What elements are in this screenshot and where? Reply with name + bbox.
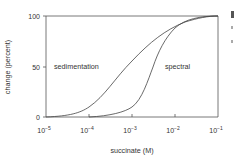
cropped-text-fragment (231, 26, 233, 29)
y-tick-100: 100 (28, 13, 40, 20)
x-tick-1e-1: 10−1 (209, 125, 223, 134)
x-tick-1e-5: 10−5 (37, 125, 51, 134)
y-tick-50: 50 (32, 64, 40, 71)
spectral-label: spectral (165, 62, 191, 71)
cropped-text-fragment (231, 40, 233, 43)
cropped-text-fragment (231, 11, 234, 18)
y-tick-0: 0 (36, 114, 40, 121)
x-tick-1e-4: 10−4 (80, 125, 94, 134)
x-tick-1e-2: 10−2 (166, 125, 180, 134)
sedimentation-label: sedimentation (54, 62, 99, 71)
x-axis-label: succinate (M) (110, 146, 153, 155)
spectral-curve (89, 16, 218, 117)
x-tick-1e-3: 10−3 (123, 125, 137, 134)
chart: 100 50 0 10−5 10−4 10−3 10−2 10−1 succin… (0, 0, 235, 161)
x-axis-ticks (89, 114, 175, 117)
y-axis-ticks (43, 16, 46, 117)
y-axis-label: change (percent) (3, 40, 12, 94)
